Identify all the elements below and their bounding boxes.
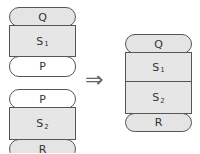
s1-block-combined: S1 <box>125 52 192 82</box>
s1-label: S <box>36 35 43 48</box>
p-block: P <box>9 56 76 77</box>
s1-label-combined: S <box>152 61 159 74</box>
s1-subscript-combined: 1 <box>160 66 164 74</box>
s2-block: S2 <box>9 107 76 140</box>
p-label-2: P <box>39 93 46 106</box>
s1-subscript: 1 <box>44 40 48 48</box>
s1-block: S1 <box>9 25 76 57</box>
r-block: R <box>9 139 76 153</box>
s2-block-combined: S2 <box>125 81 192 114</box>
q-label-combined: Q <box>154 38 163 51</box>
s2-subscript: 2 <box>44 123 48 131</box>
p-block-2: P <box>9 89 76 109</box>
s2-label: S <box>36 117 43 130</box>
s2-subscript-combined: 2 <box>160 97 164 105</box>
r-label-combined: R <box>155 116 163 129</box>
r-label: R <box>39 143 47 154</box>
implies-arrow-icon: ⇒ <box>85 69 103 91</box>
q-label: Q <box>38 11 47 24</box>
p-label: P <box>39 60 46 73</box>
q-block-combined: Q <box>125 34 192 54</box>
r-block-combined: R <box>125 113 192 132</box>
q-block: Q <box>9 7 76 27</box>
s2-label-combined: S <box>152 91 159 104</box>
